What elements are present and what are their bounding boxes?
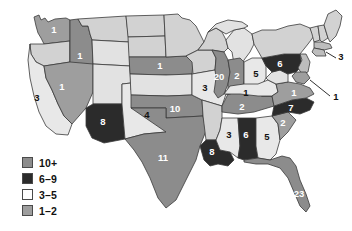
state-florida[interactable] [244, 156, 310, 212]
label-mississippi: 3 [226, 129, 231, 140]
map-legend: 10+ 6–9 3–5 1–2 [22, 155, 57, 218]
label-missouri: 3 [202, 82, 207, 93]
legend-item-6-9[interactable]: 6–9 [22, 171, 57, 186]
callout-leader-new-england [326, 52, 336, 58]
label-texas: 11 [158, 152, 169, 163]
legend-label-10-plus: 10+ [39, 157, 57, 169]
legend-item-3-5[interactable]: 3–5 [22, 187, 57, 202]
legend-swatch-1-2 [22, 205, 33, 216]
legend-label-6-9: 6–9 [39, 173, 57, 185]
legend-label-3-5: 3–5 [39, 189, 57, 201]
label-california: 3 [34, 92, 39, 103]
label-alabama: 6 [243, 129, 248, 140]
label-washington: 1 [51, 24, 57, 35]
label-nevada: 1 [59, 81, 65, 92]
label-new-mexico: 4 [144, 109, 150, 120]
label-callout-new-england: 3 [338, 51, 343, 62]
legend-item-10-plus[interactable]: 10+ [22, 155, 57, 170]
legend-swatch-3-5 [22, 189, 33, 200]
label-kentucky: 1 [243, 87, 249, 98]
label-south-carolina: 2 [280, 117, 285, 128]
state-kansas[interactable] [130, 74, 192, 96]
state-south-dakota[interactable] [128, 36, 166, 57]
label-louisiana: 8 [209, 146, 214, 157]
label-pennsylvania: 6 [277, 58, 282, 69]
legend-swatch-6-9 [22, 173, 33, 184]
label-nebraska: 1 [157, 60, 163, 71]
label-arizona: 8 [100, 116, 105, 127]
label-georgia: 5 [264, 131, 270, 142]
legend-swatch-10-plus [22, 157, 33, 168]
label-illinois: 20 [214, 71, 225, 82]
label-idaho: 1 [77, 50, 83, 61]
state-new-york[interactable] [252, 24, 314, 58]
label-ohio: 5 [253, 68, 259, 79]
map-figure: 1 1 1 3 8 4 1 10 11 3 20 2 5 1 2 3 8 6 5… [0, 0, 352, 231]
label-indiana: 2 [234, 70, 239, 81]
label-florida: 23 [294, 188, 305, 199]
label-north-carolina: 7 [288, 102, 293, 113]
label-virginia: 1 [291, 87, 297, 98]
label-tennessee: 2 [239, 101, 244, 112]
label-oklahoma: 10 [170, 103, 181, 114]
state-delaware-maryland[interactable] [292, 72, 310, 84]
legend-label-1-2: 1–2 [39, 205, 57, 217]
legend-item-1-2[interactable]: 1–2 [22, 203, 57, 218]
state-wyoming[interactable] [92, 40, 130, 66]
state-north-dakota[interactable] [126, 15, 165, 37]
label-callout-delmarva: 1 [333, 91, 339, 102]
